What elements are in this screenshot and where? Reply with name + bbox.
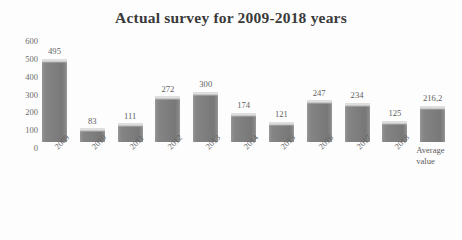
bar-slot: 216,2 xyxy=(416,41,449,142)
x-tick-slot: 2017 xyxy=(341,142,374,192)
bar-value-label: 111 xyxy=(110,111,151,121)
x-axis: 2009201020112012201320142015201620172018… xyxy=(38,142,454,192)
y-tick-label: 100 xyxy=(8,126,38,135)
x-tick-slot: 2011 xyxy=(114,142,147,192)
bar-slot: 125 xyxy=(378,41,411,142)
bar-slot: 111 xyxy=(114,41,147,142)
bar-value-label: 216,2 xyxy=(412,93,453,103)
bar[interactable] xyxy=(42,59,67,142)
bar-value-label: 234 xyxy=(337,90,378,100)
bar-value-label: 174 xyxy=(223,100,264,110)
y-tick-label: 0 xyxy=(8,144,38,153)
y-tick-label: 600 xyxy=(8,37,38,46)
plot-area: 49583111272300174121247234125216,2 xyxy=(38,41,454,142)
x-tick-slot: 2013 xyxy=(189,142,222,192)
chart-title: Actual survey for 2009-2018 years xyxy=(0,9,462,27)
bar-slot: 83 xyxy=(76,41,109,142)
bar-slot: 495 xyxy=(38,41,71,142)
bar-slot: 121 xyxy=(265,41,298,142)
bar-value-label: 121 xyxy=(261,109,302,119)
bar-slot: 174 xyxy=(227,41,260,142)
bars-layer: 49583111272300174121247234125216,2 xyxy=(38,41,454,142)
bar-value-label: 300 xyxy=(185,79,226,89)
x-tick-slot: 2009 xyxy=(38,142,71,192)
x-tick-slot: 2010 xyxy=(76,142,109,192)
y-tick-label: 300 xyxy=(8,90,38,99)
bar-value-label: 495 xyxy=(34,46,75,56)
y-tick-label: 400 xyxy=(8,72,38,81)
bar-slot: 234 xyxy=(341,41,374,142)
bar-slot: 272 xyxy=(151,41,184,142)
x-tick-slot: 2018 xyxy=(378,142,411,192)
bar-slot: 247 xyxy=(303,41,336,142)
x-tick-slot: 2016 xyxy=(303,142,336,192)
bar[interactable] xyxy=(420,106,445,142)
y-tick-label: 200 xyxy=(8,108,38,117)
bar-value-label: 247 xyxy=(299,88,340,98)
bar-value-label: 83 xyxy=(72,116,113,126)
x-tick-label: Averagevalue xyxy=(412,145,457,166)
bar-value-label: 125 xyxy=(374,108,415,118)
bar-value-label: 272 xyxy=(147,84,188,94)
x-tick-slot: 2014 xyxy=(227,142,260,192)
x-tick-label-line: Average xyxy=(416,145,457,156)
x-tick-slot: 2015 xyxy=(265,142,298,192)
bar-chart-figure: Actual survey for 2009-2018 years 600500… xyxy=(0,0,462,240)
bar-slot: 300 xyxy=(189,41,222,142)
x-tick-slot: Averagevalue xyxy=(416,142,449,192)
x-tick-label-line: value xyxy=(416,156,457,167)
x-tick-slot: 2012 xyxy=(151,142,184,192)
